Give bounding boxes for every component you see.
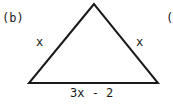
base-side-label: 3x - 2 <box>70 87 113 99</box>
right-side-label: x <box>136 36 143 48</box>
part-label: (b) <box>2 12 24 24</box>
left-side-label: x <box>36 36 43 48</box>
next-part-label-fragment: ( <box>166 12 173 24</box>
